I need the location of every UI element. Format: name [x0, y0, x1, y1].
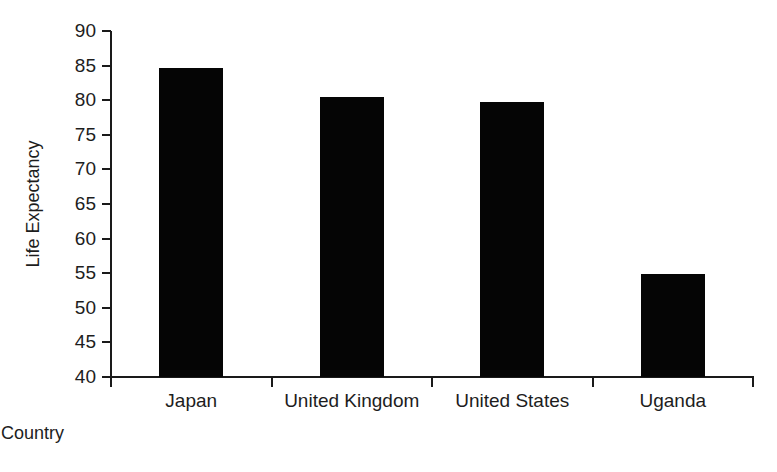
y-axis-tick-label: 80 [60, 90, 96, 109]
y-axis-tick-label: 70 [60, 159, 96, 178]
y-axis-tick-label: 75 [60, 125, 96, 144]
y-axis-tick-label: 55 [60, 263, 96, 282]
x-axis-title-text: Country [1, 423, 64, 443]
x-axis-category-label: Japan [111, 390, 272, 412]
bar [641, 274, 705, 377]
x-axis-title: Country [0, 423, 777, 444]
y-axis-title: Life Expectancy [23, 140, 44, 267]
x-axis-category-label: United Kingdom [272, 390, 433, 412]
x-axis-tick [592, 378, 594, 387]
x-axis-tick [110, 378, 112, 387]
y-axis-tick-label: 50 [60, 298, 96, 317]
bar [159, 68, 223, 377]
plot-area [111, 31, 753, 377]
x-axis-tick [431, 378, 433, 387]
bar [480, 102, 544, 377]
x-axis-category-label: Uganda [593, 390, 754, 412]
bar [320, 97, 384, 377]
x-axis-tick [752, 378, 754, 387]
x-axis-category-label: United States [432, 390, 593, 412]
bar-chart: Life Expectancy 4045505560657075808590 J… [0, 0, 777, 472]
y-axis-tick-label: 40 [60, 367, 96, 386]
y-axis-tick-label: 85 [60, 56, 96, 75]
y-axis-tick-label: 45 [60, 332, 96, 351]
y-axis-tick-label: 65 [60, 194, 96, 213]
y-axis-tick-label: 90 [60, 21, 96, 40]
y-axis-tick-label: 60 [60, 229, 96, 248]
x-axis-tick [271, 378, 273, 387]
